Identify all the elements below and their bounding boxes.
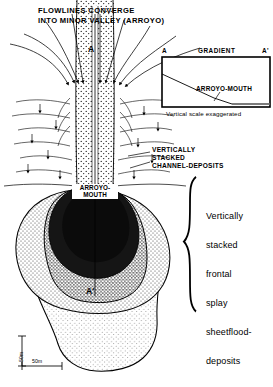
header-line-1: FLOWLINES CONVERGE [38,6,135,16]
figure-canvas: FLOWLINES CONVERGE INTO MINOR VALLEY (AR… [0,0,273,387]
axis-label-bottom: A' [86,286,94,296]
inset-label-right: A' [262,47,269,54]
scale-bar [18,336,62,370]
inset-label-left: A [162,47,167,54]
channel-annotation-line-3: CHANNEL-DEPOSITS [152,162,224,170]
brace-word-2: stacked [206,240,238,250]
channel-annotation-line-1: VERTICALLY [152,146,195,154]
brace-word-1: Vertically [206,211,243,221]
arroyo-mouth-line-2: MOUTH [72,191,118,198]
arroyo-mouth-line-1: ARROYO- [72,184,118,191]
inset-profile-label: ARROYO-MOUTH [196,85,252,92]
channel-deposit-leader [128,152,150,168]
arroyo-mouth-label: ARROYO- MOUTH [72,184,118,199]
inset-gradient-box [162,57,270,107]
splay-lobe-proximal-dark [49,186,139,278]
scale-label-vertical: 50m [18,352,24,362]
brace-word-5: sheetflood- [206,327,252,337]
channel-annotation-line-2: STACKED [152,154,185,162]
brace-word-3: frontal [206,269,232,279]
brace-word-4: splay [206,298,228,308]
header-line-2: INTO MINOR VALLEY (ARROYO) [38,16,164,26]
inset-caption: Vertical scale exaggerated [166,110,241,117]
inset-title: GRADIENT [198,47,235,54]
scale-label-horizontal: 50m [32,358,42,364]
brace [184,177,196,312]
brace-word-6: deposits [206,356,240,366]
axis-label-top: A [88,44,94,54]
